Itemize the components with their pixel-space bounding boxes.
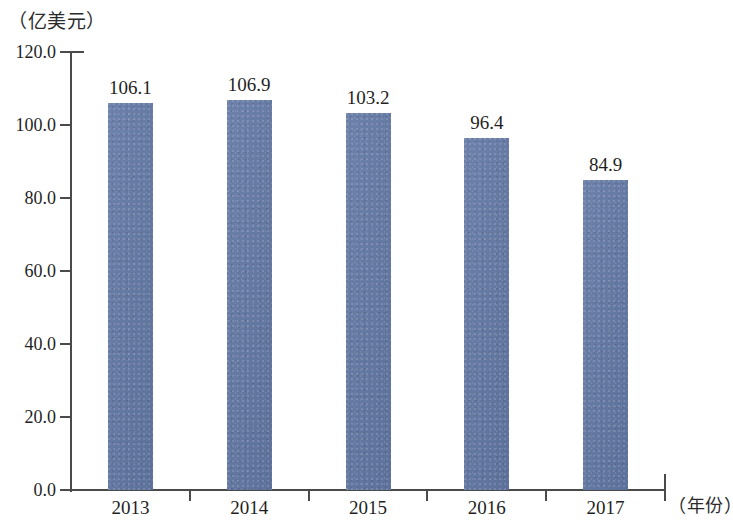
x-axis-end-cap: [664, 474, 666, 490]
y-axis-tick: [60, 197, 71, 199]
y-axis-top-cap: [70, 51, 84, 53]
x-axis-category-label-2014: 2014: [199, 498, 299, 517]
x-axis-tick: [308, 490, 310, 501]
y-axis-tick-label: 20.0: [0, 408, 56, 426]
bar-value-label-2013: 106.1: [85, 78, 175, 97]
x-axis-tick: [545, 490, 547, 501]
y-axis-tick: [60, 489, 71, 491]
bar-value-label-2015: 103.2: [323, 88, 413, 107]
bar-2015: [346, 113, 391, 490]
x-axis-tick: [426, 490, 428, 501]
bar-value-label-2016: 96.4: [442, 113, 532, 132]
x-axis-category-label-2017: 2017: [556, 498, 656, 517]
x-axis-unit-label: （年份）: [668, 497, 733, 515]
bar-2014: [227, 100, 272, 490]
y-axis-tick: [60, 416, 71, 418]
y-axis-tick-label: 60.0: [0, 262, 56, 280]
x-axis-category-label-2015: 2015: [318, 498, 418, 517]
bar-chart: （亿美元） 120.0100.080.060.040.020.00.0106.1…: [0, 0, 733, 524]
bar-value-label-2017: 84.9: [561, 155, 651, 174]
y-axis-unit-label: （亿美元）: [8, 12, 106, 31]
x-axis-tick: [664, 490, 666, 501]
bar-2016: [464, 138, 509, 490]
bar-2017: [583, 180, 628, 490]
y-axis-tick-label: 40.0: [0, 335, 56, 353]
y-axis-tick-label: 120.0: [0, 43, 56, 61]
y-axis-tick: [60, 270, 71, 272]
x-axis-category-label-2013: 2013: [80, 498, 180, 517]
y-axis-tick: [60, 343, 71, 345]
y-axis-tick-label: 80.0: [0, 189, 56, 207]
bar-2013: [108, 103, 153, 490]
x-axis-category-label-2016: 2016: [437, 498, 537, 517]
x-axis-tick: [189, 490, 191, 501]
y-axis-tick-label: 100.0: [0, 116, 56, 134]
y-axis-tick: [60, 124, 71, 126]
y-axis-tick-label: 0.0: [0, 481, 56, 499]
bar-value-label-2014: 106.9: [204, 75, 294, 94]
y-axis-tick: [60, 51, 71, 53]
